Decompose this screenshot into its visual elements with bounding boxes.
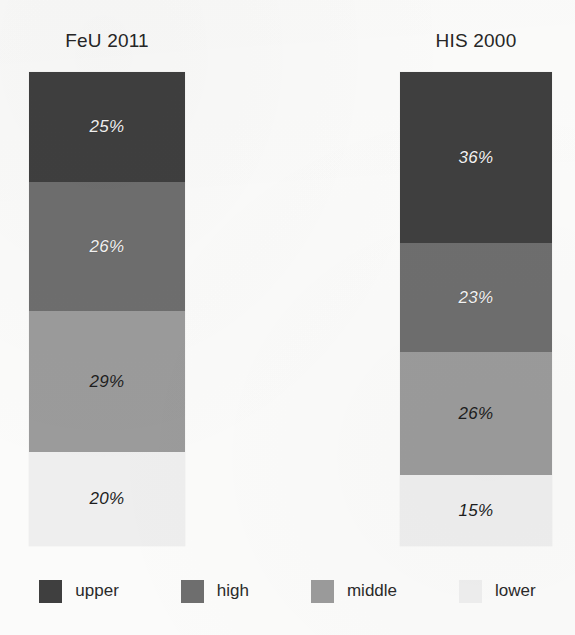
stacked-bar-his-2000: 36% 23% 26% 15%	[400, 72, 552, 546]
legend-swatch-upper	[39, 580, 62, 603]
legend-label-high: high	[217, 581, 249, 601]
legend-swatch-high	[181, 580, 204, 603]
chart-legend: upper high middle lower	[0, 578, 575, 604]
segment-value-label: 26%	[459, 404, 494, 424]
segment-value-label: 20%	[90, 489, 125, 509]
legend-item-upper[interactable]: upper	[39, 580, 118, 603]
legend-label-middle: middle	[347, 581, 397, 601]
segment-value-label: 36%	[459, 148, 494, 168]
legend-swatch-lower	[459, 580, 482, 603]
segment-his-2000-middle[interactable]: 26%	[400, 352, 552, 475]
segment-his-2000-lower[interactable]: 15%	[400, 475, 552, 546]
legend-item-middle[interactable]: middle	[311, 580, 397, 603]
legend-label-upper: upper	[75, 581, 118, 601]
segment-value-label: 25%	[90, 117, 125, 137]
segment-feu-2011-middle[interactable]: 29%	[29, 311, 185, 452]
bar-group-his-2000: HIS 2000 36% 23% 26% 15%	[400, 30, 552, 546]
segment-his-2000-high[interactable]: 23%	[400, 243, 552, 352]
segment-value-label: 26%	[90, 237, 125, 257]
segment-value-label: 29%	[90, 372, 125, 392]
legend-item-high[interactable]: high	[181, 580, 249, 603]
bar-title-feu-2011: FeU 2011	[29, 30, 185, 52]
legend-swatch-middle	[311, 580, 334, 603]
segment-value-label: 23%	[459, 288, 494, 308]
segment-his-2000-upper[interactable]: 36%	[400, 72, 552, 243]
bar-group-feu-2011: FeU 2011 25% 26% 29% 20%	[29, 30, 185, 546]
legend-label-lower: lower	[495, 581, 536, 601]
segment-feu-2011-high[interactable]: 26%	[29, 182, 185, 311]
bar-title-his-2000: HIS 2000	[400, 30, 552, 52]
legend-item-lower[interactable]: lower	[459, 580, 536, 603]
stacked-bar-feu-2011: 25% 26% 29% 20%	[29, 72, 185, 546]
segment-feu-2011-lower[interactable]: 20%	[29, 452, 185, 546]
segment-value-label: 15%	[459, 501, 494, 521]
stacked-bar-chart: FeU 2011 25% 26% 29% 20% HIS 2000 36% 23…	[0, 0, 575, 635]
segment-feu-2011-upper[interactable]: 25%	[29, 72, 185, 182]
